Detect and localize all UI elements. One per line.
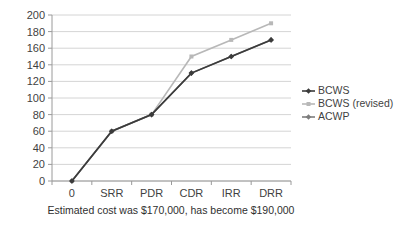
y-axis-tick-label: 200	[27, 9, 45, 21]
y-axis-tick-label: 100	[27, 92, 45, 104]
x-axis-tick-label: SRR	[100, 187, 123, 199]
legend-item-label: ACWP	[318, 110, 350, 122]
x-axis-caption: Estimated cost was $170,000, has become …	[48, 204, 295, 216]
x-axis-tick-label: CDR	[179, 187, 203, 199]
x-axis-tick-label: DRR	[259, 187, 283, 199]
y-axis-tick-label: 140	[27, 59, 45, 71]
y-axis-tick-label: 60	[33, 125, 45, 137]
x-axis-tick-label: IRR	[222, 187, 241, 199]
y-axis-tick-label: 0	[39, 175, 45, 187]
legend-item-label: BCWS (revised)	[318, 97, 393, 109]
y-axis-tick-label: 40	[33, 142, 45, 154]
y-axis-tick-label: 120	[27, 75, 45, 87]
y-axis-tick-label: 160	[27, 42, 45, 54]
x-axis-tick-label: PDR	[140, 187, 163, 199]
data-point-marker	[269, 21, 273, 25]
data-point-marker	[189, 55, 193, 59]
line-chart: 020406080100120140160180200 0SRRPDRCDRIR…	[0, 0, 400, 228]
data-point-marker	[229, 38, 233, 42]
y-axis-tick-label: 80	[33, 109, 45, 121]
y-axis-tick-label: 20	[33, 158, 45, 170]
chart-container: 020406080100120140160180200 0SRRPDRCDRIR…	[0, 0, 400, 228]
y-axis-tick-label: 180	[27, 26, 45, 38]
data-point-marker	[307, 102, 311, 106]
legend-item-label: BCWS	[318, 84, 350, 96]
x-axis-tick-label: 0	[69, 187, 75, 199]
